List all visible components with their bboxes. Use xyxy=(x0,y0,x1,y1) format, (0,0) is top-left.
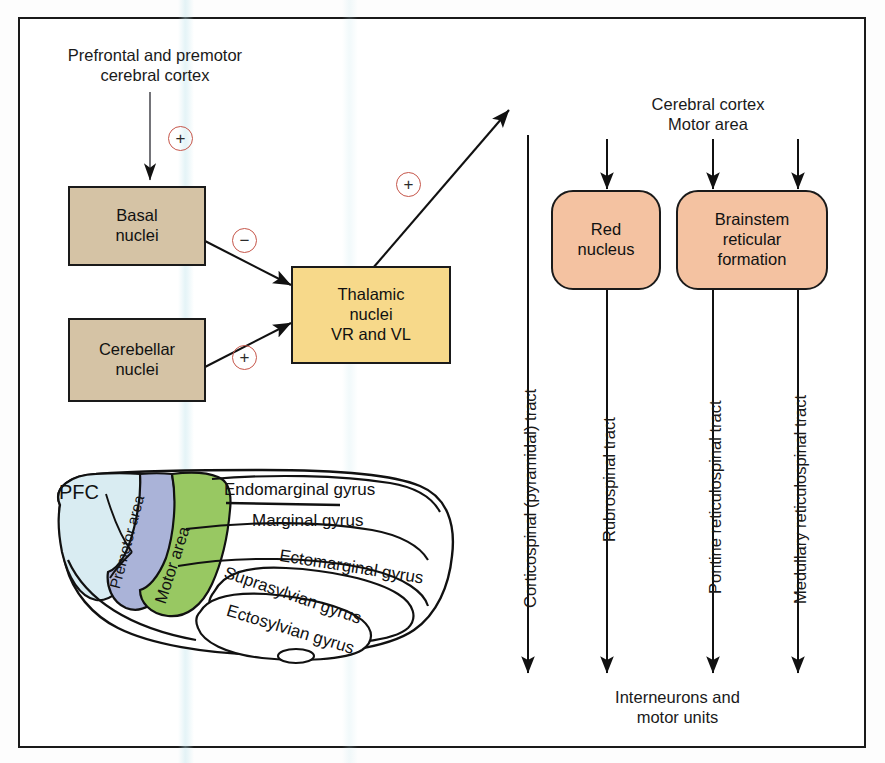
sign-thalamic-output: + xyxy=(396,172,421,197)
sign-cerebellar-to-thalamic: + xyxy=(232,345,257,370)
box-thalamic-nuclei: Thalamic nuclei VR and VL xyxy=(291,266,451,364)
tract-label-corticospinal: Corticospinal (pyramidal) tract xyxy=(521,389,540,608)
box-brainstem-reticular-formation: Brainstem reticular formation xyxy=(676,190,828,290)
label-interneurons-motor-units: Interneurons and motor units xyxy=(565,687,790,727)
gyrus-label-endomarginal: Endomarginal gyrus xyxy=(224,480,375,500)
box-basal-nuclei: Basal nuclei xyxy=(68,186,206,266)
tract-label-rubrospinal: Rubrospinal tract xyxy=(600,417,619,542)
brain-label-pfc: PFC xyxy=(59,481,99,504)
gyrus-label-marginal: Marginal gyrus xyxy=(252,511,364,531)
sign-basal-to-thalamic: − xyxy=(232,228,257,253)
box-cerebellar-nuclei-label: Cerebellar nuclei xyxy=(99,340,175,380)
box-cerebellar-nuclei: Cerebellar nuclei xyxy=(68,318,206,402)
box-red-nucleus-label: Red nucleus xyxy=(578,220,635,260)
box-basal-nuclei-label: Basal nuclei xyxy=(115,206,158,246)
tract-label-pontine: Pontine reticulospinal tract xyxy=(706,400,725,594)
figure-root: Prefrontal and premotor cerebral cortex … xyxy=(0,0,885,763)
tract-label-medullary: Medullary reticulospinal tract xyxy=(791,395,810,604)
box-brainstem-reticular-formation-label: Brainstem reticular formation xyxy=(715,210,789,269)
page-title-cortex-input: Prefrontal and premotor cerebral cortex xyxy=(40,45,270,85)
label-cerebral-cortex-motor-area: Cerebral cortex Motor area xyxy=(598,94,818,134)
box-red-nucleus: Red nucleus xyxy=(551,190,661,290)
sign-cortex-to-basal: + xyxy=(168,126,193,151)
box-thalamic-nuclei-label: Thalamic nuclei VR and VL xyxy=(331,285,411,344)
